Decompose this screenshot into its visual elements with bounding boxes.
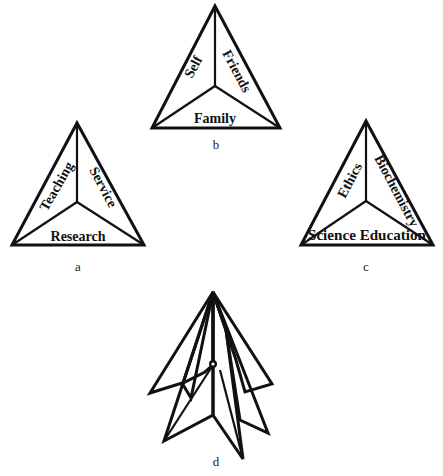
caption-d: d <box>213 454 220 469</box>
label-research: Research <box>51 229 106 244</box>
label-self: Self <box>181 53 205 80</box>
triangle-b: Self Friends Family b <box>152 6 280 152</box>
triangle-c: Ethics Biochemistry Science Education c <box>301 121 433 274</box>
label-service: Service <box>86 164 120 209</box>
label-family: Family <box>194 111 236 126</box>
axis-node-center <box>211 362 214 365</box>
diagram-canvas: Self Friends Family b Teaching Service R… <box>0 0 443 476</box>
stacked-tetrahedra-d: d <box>150 292 272 469</box>
triangle-a: Teaching Service Research a <box>12 123 144 274</box>
label-ethics: Ethics <box>334 160 365 200</box>
caption-a: a <box>75 259 81 274</box>
panel-back-left <box>150 292 213 398</box>
caption-c: c <box>363 259 369 274</box>
caption-b: b <box>213 137 220 152</box>
label-biochemistry: Biochemistry <box>371 152 421 229</box>
label-science-education: Science Education <box>308 228 426 243</box>
